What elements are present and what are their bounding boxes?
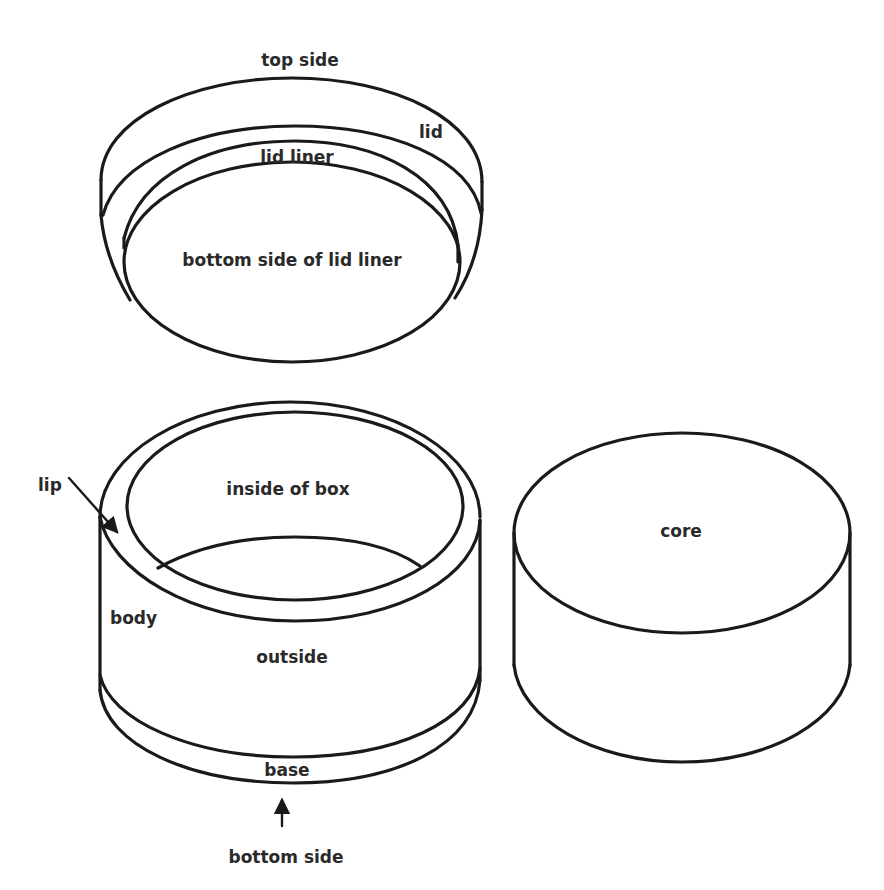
label-lid-liner: lid liner	[260, 147, 334, 167]
label-core: core	[660, 521, 702, 541]
label-bottom-side-of-lid-liner: bottom side of lid liner	[182, 250, 402, 270]
label-inside-of-box: inside of box	[226, 479, 349, 499]
lip-arrow	[69, 478, 117, 532]
label-lip: lip	[38, 475, 62, 495]
box-inside-bottom-arc	[158, 537, 420, 568]
label-outside: outside	[256, 647, 328, 667]
box-outer-rim	[100, 402, 480, 517]
label-base: base	[264, 760, 309, 780]
box-anatomy-diagram: top side lid lid liner bottom side of li…	[0, 0, 884, 890]
lid-drawing	[101, 78, 482, 362]
label-lid: lid	[419, 122, 443, 142]
label-body: body	[110, 608, 157, 628]
label-top-side: top side	[261, 50, 339, 70]
label-bottom-side: bottom side	[228, 847, 343, 867]
core-drawing	[514, 433, 850, 762]
box-drawing	[100, 402, 480, 783]
core-bottom-edge	[514, 665, 850, 762]
box-base-top-edge	[100, 668, 480, 757]
box-inner-rim	[127, 412, 463, 600]
